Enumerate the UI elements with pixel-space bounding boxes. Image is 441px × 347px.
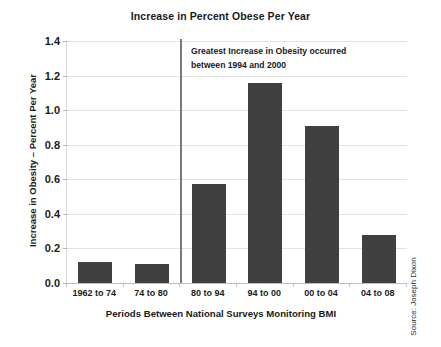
x-tick-label: 04 to 08	[346, 288, 410, 298]
annotation-line-1: Greatest Increase in Obesity occurred	[191, 45, 396, 59]
period-divider-line	[180, 39, 182, 283]
y-tick-label: 0.6	[45, 173, 60, 185]
bar	[248, 83, 282, 284]
source-credit: Source: Joseph Dixon	[409, 241, 418, 347]
x-tick-mark	[123, 283, 124, 287]
x-tick-label: 74 to 80	[119, 288, 183, 298]
gridline: 0.6	[67, 179, 407, 180]
y-tick-label: 0.0	[45, 277, 60, 289]
x-tick-mark	[349, 283, 350, 287]
y-tick-mark	[63, 110, 67, 111]
chart-title: Increase in Percent Obese Per Year	[0, 10, 441, 22]
bar	[192, 184, 226, 283]
y-tick-label: 1.4	[45, 35, 60, 47]
y-tick-label: 1.0	[45, 104, 60, 116]
gridline: 1.0	[67, 110, 407, 111]
x-tick-mark	[406, 283, 407, 287]
x-tick-mark	[66, 283, 67, 287]
x-tick-mark	[236, 283, 237, 287]
bar	[78, 262, 112, 283]
y-tick-mark	[63, 41, 67, 42]
gridline: 0.2	[67, 248, 407, 249]
annotation-greatest-increase: Greatest Increase in Obesity occurred be…	[191, 45, 396, 72]
y-tick-mark	[63, 179, 67, 180]
y-tick-mark	[63, 248, 67, 249]
chart-figure: Increase in Percent Obese Per Year Incre…	[0, 0, 441, 347]
bar	[305, 126, 339, 283]
y-tick-label: 1.2	[45, 70, 60, 82]
y-tick-label: 0.4	[45, 208, 60, 220]
x-tick-label: 94 to 00	[232, 288, 296, 298]
gridline: 0.8	[67, 145, 407, 146]
x-axis-tick-labels: 1962 to 7474 to 8080 to 9494 to 0000 to …	[66, 288, 406, 304]
x-tick-mark	[179, 283, 180, 287]
gridline: 1.4	[67, 41, 407, 42]
bar	[135, 264, 169, 283]
gridline: 1.2	[67, 76, 407, 77]
x-tick-label: 1962 to 74	[62, 288, 126, 298]
y-axis-title: Increase in Obesity – Percent Per Year	[27, 46, 38, 276]
x-axis-title: Periods Between National Surveys Monitor…	[36, 308, 406, 319]
bar	[362, 235, 396, 283]
x-tick-mark	[293, 283, 294, 287]
y-tick-label: 0.8	[45, 139, 60, 151]
plot-area: 0.00.20.40.60.81.01.21.4 Greatest Increa…	[66, 41, 407, 283]
gridline: 0.4	[67, 214, 407, 215]
y-tick-label: 0.2	[45, 242, 60, 254]
x-tick-label: 80 to 94	[176, 288, 240, 298]
x-tick-label: 00 to 04	[289, 288, 353, 298]
y-tick-mark	[63, 145, 67, 146]
y-tick-mark	[63, 214, 67, 215]
annotation-line-2: between 1994 and 2000	[191, 59, 396, 73]
y-tick-mark	[63, 76, 67, 77]
